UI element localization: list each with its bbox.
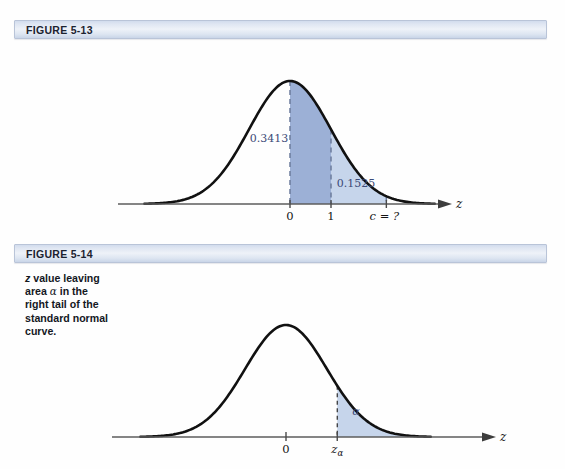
figure-5-13-plot: 0 1 c = ? 0.3413 0.1525 z — [0, 40, 565, 235]
tick-label-0: 0 — [286, 209, 293, 223]
area-label-0.3413: 0.3413 — [250, 132, 289, 145]
tick-label-1: 1 — [327, 209, 334, 223]
z-axis-label: z — [455, 197, 463, 211]
shaded-area-0.3413 — [290, 81, 331, 204]
figure-5-14-header-bar: FIGURE 5-14 — [14, 244, 547, 263]
normal-curve — [140, 325, 430, 437]
area-label-alpha: α — [352, 404, 360, 418]
page-canvas: FIGURE 5-13 0 1 c = ? 0.3413 0.1525 z FI… — [0, 0, 565, 469]
figure-5-14-label: FIGURE 5-14 — [15, 248, 93, 260]
tick-label-0: 0 — [282, 442, 289, 456]
figure-5-13-header-bar: FIGURE 5-13 — [14, 20, 547, 39]
tick-label-c: c = ? — [370, 209, 400, 223]
z-axis-label: z — [499, 430, 507, 444]
z-axis-arrowhead — [438, 200, 452, 209]
figure-5-14-plot: 0 zα α z — [0, 265, 565, 460]
tick-label-z-alpha: zα — [330, 442, 343, 458]
figure-5-13-label: FIGURE 5-13 — [15, 24, 93, 36]
z-axis-arrowhead — [482, 433, 496, 442]
area-label-0.1525: 0.1525 — [337, 177, 376, 190]
